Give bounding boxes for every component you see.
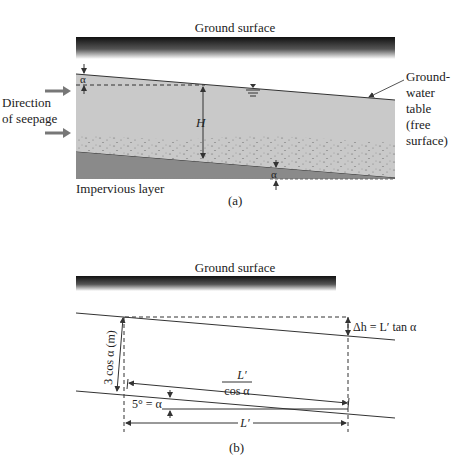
ground-surface-label: Ground surface [195,20,276,35]
groundwater-label: Ground- water table (free surface) [406,69,450,148]
ground-surface-label-b: Ground surface [195,260,276,275]
impervious-label: Impervious layer [76,181,165,196]
seepage-label-line2: of seepage [2,111,57,126]
caption-b: (b) [229,440,244,455]
slope-length-denominator: cos α [224,384,250,398]
height-label: H [195,115,206,130]
alpha-top-label: α [80,73,86,85]
caption-a: (a) [228,193,242,208]
svg-text:water: water [406,85,436,100]
thickness-label: 3 cos α (m) [101,330,118,385]
ground-surface-band [76,37,395,59]
svg-text:surface): surface) [406,133,448,148]
delta-h-label: Δh = L′ tan α [353,320,417,334]
angle-label: 5° = α [132,397,163,411]
alpha-bottom-label: α [271,168,277,180]
panel-a: Ground surface α H α [2,20,450,208]
svg-text:table: table [406,101,431,116]
panel-b: Ground surface Δh = L′ tan α 3 cos α (m)… [76,260,417,455]
seepage-diagram: Ground surface α H α [0,0,456,468]
groundwater-leader [369,80,404,97]
thickness-dimension [117,318,123,391]
horizontal-length-label: L′ [239,416,250,430]
ground-surface-band-b [76,276,336,291]
svg-text:(free: (free [406,117,431,132]
slope-length-numerator: L′ [236,368,247,382]
svg-text:Ground-: Ground- [406,69,450,84]
seepage-label-line1: Direction [2,95,52,110]
